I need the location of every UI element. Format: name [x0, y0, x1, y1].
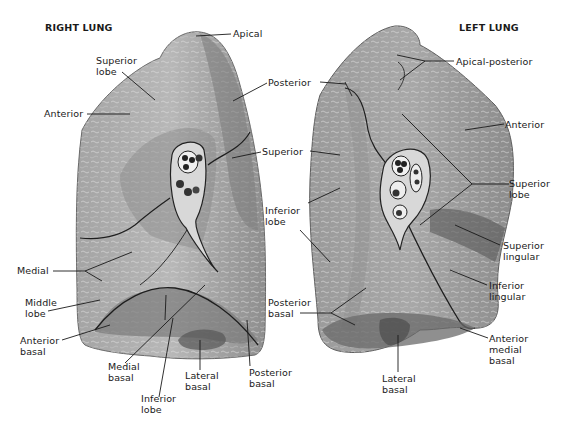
label-right-medial: Medial	[17, 265, 49, 276]
label-right-superior: Superior	[262, 146, 303, 157]
label-right-anterior: Anterior	[44, 108, 83, 119]
label-left-superior-lobe: Superior lobe	[509, 178, 550, 200]
label-right-anterior-basal: Anterior basal	[20, 335, 59, 357]
label-right-apical: Apical	[233, 28, 262, 39]
label-right-posterior-basal: Posterior basal	[249, 367, 292, 389]
label-left-inferior-lingular: Inferior lingular	[489, 280, 526, 302]
label-left-anterior: Anterior	[505, 119, 544, 130]
label-left-apical-posterior: Apical-posterior	[456, 56, 533, 67]
label-left-anterior-medial-basal: Anterior medial basal	[489, 333, 528, 366]
right-lung	[76, 32, 265, 359]
label-right-inferior-lobe: Inferior lobe	[141, 393, 176, 415]
lung-segments-diagram: RIGHT LUNG LEFT LUNG Apical Superior lob…	[0, 0, 562, 425]
right-lung-title: RIGHT LUNG	[45, 22, 113, 33]
label-right-middle-lobe: Middle lobe	[25, 297, 57, 319]
label-right-superior-lobe: Superior lobe	[96, 55, 137, 77]
left-lung-title: LEFT LUNG	[459, 22, 519, 33]
label-left-superior-lingular: Superior lingular	[503, 240, 544, 262]
label-right-posterior: Posterior	[268, 77, 311, 88]
left-lung	[310, 26, 514, 353]
label-left-inferior-lobe: Inferior lobe	[265, 205, 300, 227]
label-right-medial-basal: Medial basal	[108, 361, 140, 383]
label-left-posterior-basal: Posterior basal	[268, 297, 311, 319]
label-right-lateral-basal: Lateral basal	[185, 370, 219, 392]
label-left-lateral-basal: Lateral basal	[382, 373, 416, 395]
